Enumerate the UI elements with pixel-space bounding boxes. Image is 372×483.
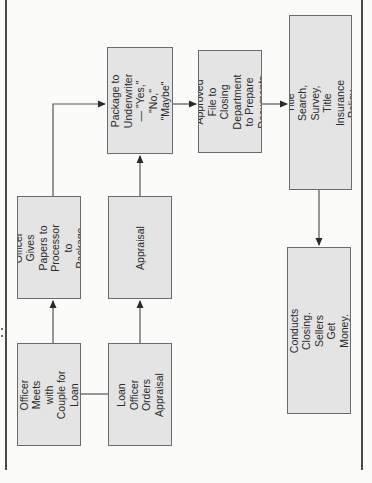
edge-give-papers-underwriter (53, 104, 105, 196)
node-label: Approved File to Closing Department to P… (198, 74, 262, 129)
node-order-appraisal: Loan Officer Orders Appraisal (108, 343, 172, 446)
node-closing-department: Approved File to Closing Department to P… (198, 50, 262, 153)
node-appraisal: Appraisal (108, 196, 172, 299)
node-label: Loan Officer Meets with Couple for Loan … (17, 369, 81, 420)
node-label: Settlement or Closing Agent Conducts Clo… (287, 305, 351, 355)
node-label: Sends to Settlement Agent Who Orders Tit… (289, 77, 352, 127)
node-closing: Settlement or Closing Agent Conducts Clo… (287, 247, 351, 414)
node-label: Appraisal (134, 226, 147, 270)
node-underwriter: Package to Underwriter — "Yes," "No," "M… (107, 47, 173, 154)
node-settlement-agent: Sends to Settlement Agent Who Orders Tit… (289, 15, 352, 190)
node-label: Package to Underwriter — "Yes," "No," "M… (109, 73, 172, 127)
node-label: Loan Officer Orders Appraisal (115, 373, 165, 417)
node-label: Loan Officer Gives Papers to Processor t… (17, 224, 81, 271)
node-give-papers: Loan Officer Gives Papers to Processor t… (17, 196, 81, 299)
node-loan-application: Loan Officer Meets with Couple for Loan … (17, 343, 81, 446)
